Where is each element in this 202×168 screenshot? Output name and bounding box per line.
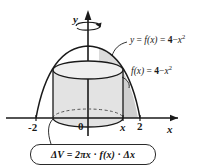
curve-label-leader-line [112, 42, 127, 56]
origin-label: 0 [78, 121, 84, 132]
curve-equation-label: y = f(x) = 4−x2 [130, 36, 185, 46]
formula-dot-1: · [93, 149, 96, 160]
curve-label-fn: f(x) [144, 35, 157, 45]
formula-dot-2: · [118, 149, 121, 160]
x-axis-label: x [167, 124, 173, 135]
curve-label-exponent: 2 [182, 33, 185, 40]
y-axis-label: y [73, 14, 78, 25]
formula-delta-v: ΔV [51, 149, 64, 160]
height-label-exponent: 2 [169, 64, 172, 71]
formula-coefficient: 2πx [75, 149, 91, 160]
shell-method-figure: y x 0 -2 x 2 y = f(x) = 4−x2 f(x) = 4−x2… [0, 0, 202, 168]
formula-delta-x: Δx [124, 149, 135, 160]
curve-label-equals-2: = [160, 35, 165, 45]
formula-equals: = [67, 149, 73, 160]
figure-canvas [0, 0, 202, 168]
shaded-region [122, 70, 138, 118]
volume-formula-text: ΔV = 2πx · f(x) · Δx [51, 149, 135, 160]
tick-label-2: 2 [137, 121, 143, 132]
x-axis-arrowhead [170, 115, 178, 121]
volume-formula-box: ΔV = 2πx · f(x) · Δx [30, 144, 156, 165]
formula-leader-line [49, 119, 53, 144]
formula-function: f(x) [100, 149, 115, 160]
height-label-fn: f(x) [131, 66, 144, 76]
curve-label-equals-1: = [137, 35, 142, 45]
tick-label-minus-2: -2 [28, 122, 37, 133]
height-equation-label: f(x) = 4−x2 [131, 67, 172, 77]
curve-label-y: y [130, 35, 134, 45]
y-axis-arrowhead [85, 10, 92, 20]
tick-label-x: x [120, 122, 126, 133]
height-label-equals: = [147, 66, 152, 76]
shell-top-ellipse [53, 61, 123, 79]
